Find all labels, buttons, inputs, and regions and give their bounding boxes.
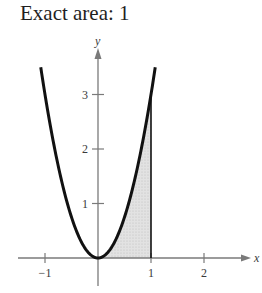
y-axis-label: y <box>94 34 101 48</box>
x-tick-label: 2 <box>201 266 207 280</box>
x-axis-label: x <box>253 251 260 265</box>
y-axis-arrow-icon <box>95 48 102 59</box>
y-tick-label: 3 <box>82 88 88 102</box>
y-tick-label: 2 <box>82 142 88 156</box>
x-tick-label: −1 <box>39 266 52 280</box>
x-axis-arrow-icon <box>241 255 251 262</box>
plot-area: −112123xy <box>0 0 262 293</box>
x-tick-label: 1 <box>148 266 154 280</box>
y-tick-label: 1 <box>82 197 88 211</box>
shaded-area <box>98 95 151 259</box>
